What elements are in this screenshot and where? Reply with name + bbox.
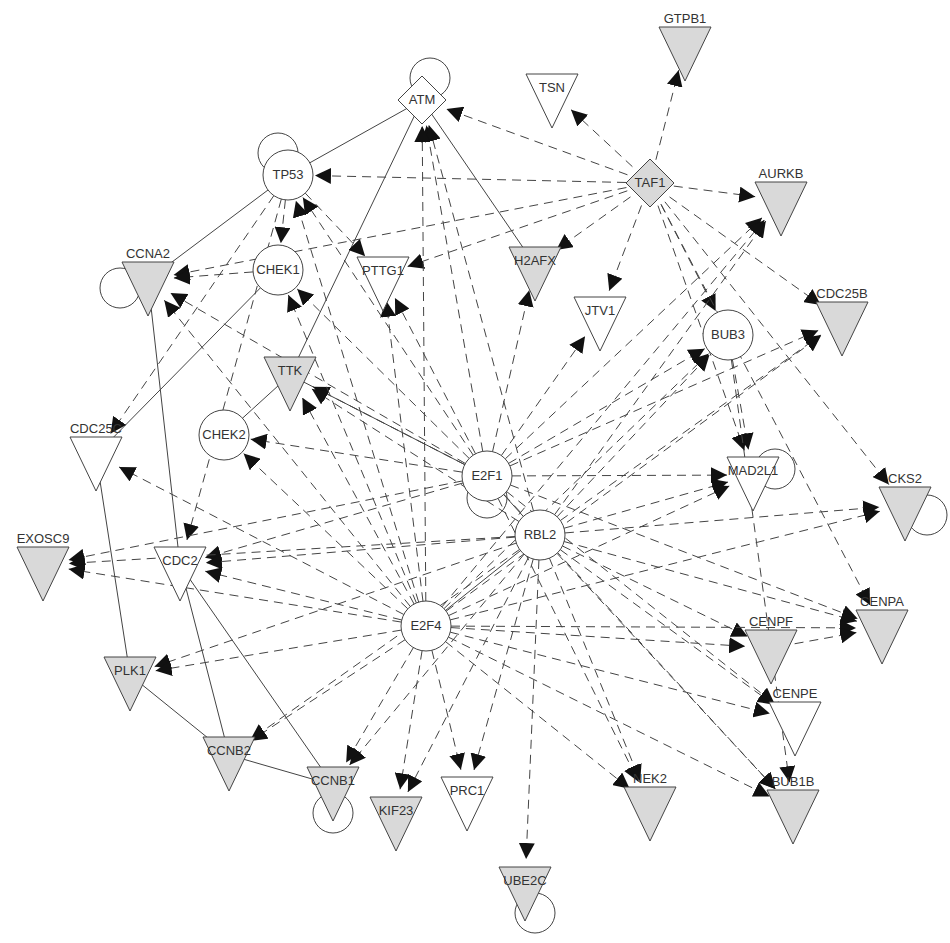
- node-tp53[interactable]: TP53: [263, 150, 313, 200]
- edge-e2f4-prc1: [432, 650, 461, 769]
- node-cenpe[interactable]: CENPE: [769, 686, 821, 756]
- triangle-shape-icon: [17, 547, 69, 601]
- node-label: RBL2: [524, 527, 557, 542]
- triangle-shape-icon: [879, 487, 931, 541]
- triangle-shape-icon: [769, 702, 821, 756]
- edge-e2f4-atm: [422, 126, 426, 601]
- node-mad2l1[interactable]: MAD2L1: [727, 457, 779, 511]
- node-label: CDC2: [162, 553, 197, 568]
- node-aurkb[interactable]: AURKB: [755, 166, 807, 236]
- edge-chek1-ccna2: [174, 272, 253, 278]
- node-cdc2[interactable]: CDC2: [154, 547, 206, 601]
- edge-taf1-atm: [446, 109, 627, 175]
- edge-taf1-cdc25b: [670, 197, 821, 305]
- node-rbl2[interactable]: RBL2: [515, 510, 565, 560]
- node-label: PTTG1: [362, 263, 404, 278]
- node-label: PLK1: [114, 663, 146, 678]
- triangle-shape-icon: [122, 262, 174, 316]
- edge-e2f4-kif23: [400, 651, 422, 790]
- node-label: CDC25C: [70, 421, 122, 436]
- edge-e2f1-cdc2: [205, 483, 463, 558]
- network-diagram: GTPB1TSNATMTAF1TP53AURKBCCNA2CHEK1PTTG1H…: [0, 0, 950, 943]
- node-gtpb1[interactable]: GTPB1: [659, 11, 711, 81]
- edge-e2f4-nek2: [446, 642, 630, 789]
- node-e2f4[interactable]: E2F4: [401, 601, 451, 651]
- edge-rbl2-cdc25b: [560, 335, 820, 520]
- node-atm[interactable]: ATM: [398, 76, 446, 124]
- edge-cenpf-cenpa: [795, 633, 857, 644]
- node-jtv1[interactable]: JTV1: [574, 297, 626, 351]
- edge-cdc2-ccnb1: [180, 565, 333, 785]
- node-layer: GTPB1TSNATMTAF1TP53AURKBCCNA2CHEK1PTTG1H…: [17, 11, 931, 921]
- edge-taf1-cenpa: [661, 204, 870, 605]
- node-label: CENPA: [860, 594, 904, 609]
- edge-e2f1-bub3: [509, 349, 705, 464]
- edge-ccna2-cdc2: [148, 280, 180, 565]
- node-pttg1[interactable]: PTTG1: [357, 257, 409, 311]
- node-taf1[interactable]: TAF1: [626, 159, 674, 207]
- node-nek2[interactable]: NEK2: [624, 771, 676, 841]
- edge-cdc25c-plk1: [96, 455, 130, 675]
- node-kif23[interactable]: KIF23: [370, 797, 422, 851]
- node-label: PRC1: [450, 783, 485, 798]
- node-prc1[interactable]: PRC1: [441, 777, 493, 831]
- node-chek1[interactable]: CHEK1: [253, 245, 303, 295]
- node-label: CCNA2: [126, 246, 170, 261]
- node-ube2c[interactable]: UBE2C: [499, 867, 551, 921]
- edge-rbl2-cks2: [565, 507, 879, 533]
- edge-atm-h2afx: [422, 100, 535, 265]
- node-plk1[interactable]: PLK1: [104, 657, 156, 711]
- edge-e2f4-chek2: [244, 454, 408, 609]
- edge-tp53-pttg1: [305, 193, 365, 256]
- node-label: E2F1: [471, 468, 502, 483]
- node-cenpf[interactable]: CENPF: [745, 614, 797, 684]
- node-exosc9[interactable]: EXOSC9: [17, 531, 70, 601]
- edge-rbl2-cenpf: [562, 546, 747, 637]
- edge-tp53-cdc25c: [111, 196, 274, 434]
- edge-taf1-gtpb1: [656, 70, 679, 160]
- node-label: BUB1B: [772, 774, 815, 789]
- edge-e2f4-plk1: [156, 630, 402, 671]
- node-label: NEK2: [633, 771, 667, 786]
- node-label: CCNB1: [311, 773, 355, 788]
- edge-e2f1-tp53: [303, 198, 473, 456]
- node-label: E2F4: [410, 618, 441, 633]
- node-bub1b[interactable]: BUB1B: [767, 774, 819, 844]
- node-h2afx[interactable]: H2AFX: [509, 247, 561, 301]
- triangle-shape-icon: [70, 437, 122, 491]
- node-label: CENPF: [749, 614, 793, 629]
- edge-e2f4-mad2l1: [449, 486, 730, 616]
- edge-taf1-tp53: [315, 176, 626, 183]
- node-cenpa[interactable]: CENPA: [856, 594, 908, 664]
- node-label: MAD2L1: [728, 463, 779, 478]
- triangle-shape-icon: [624, 787, 676, 841]
- node-label: CCNB2: [207, 743, 251, 758]
- node-ccnb1[interactable]: CCNB1: [307, 767, 359, 821]
- edge-tp53-chek1: [281, 200, 286, 243]
- edge-e2f4-ccnb2: [251, 640, 405, 741]
- edge-taf1-aurkb: [674, 186, 755, 197]
- node-cdc25b[interactable]: CDC25B: [816, 286, 868, 356]
- edge-e2f1-atm: [426, 126, 482, 452]
- edge-rbl2-ccnb1: [350, 554, 524, 765]
- edge-bub3-mad2l1: [732, 360, 748, 450]
- node-e2f1[interactable]: E2F1: [462, 451, 512, 501]
- triangle-shape-icon: [767, 790, 819, 844]
- node-tsn[interactable]: TSN: [526, 74, 578, 128]
- edge-rbl2-nek2: [549, 558, 640, 781]
- node-label: CHEK1: [256, 262, 299, 277]
- node-label: TTK: [278, 363, 303, 378]
- edge-e2f1-h2afx: [493, 290, 530, 451]
- node-cks2[interactable]: CKS2: [879, 471, 931, 541]
- node-ccnb2[interactable]: CCNB2: [203, 737, 255, 791]
- node-label: CENPE: [773, 686, 818, 701]
- node-label: H2AFX: [514, 253, 556, 268]
- node-chek2[interactable]: CHEK2: [199, 410, 249, 460]
- node-label: TSN: [539, 80, 565, 95]
- node-bub3[interactable]: BUB3: [703, 310, 753, 360]
- node-label: KIF23: [379, 803, 414, 818]
- triangle-shape-icon: [659, 27, 711, 81]
- edge-chek1-cdc25c: [96, 270, 278, 455]
- node-cdc25c[interactable]: CDC25C: [70, 421, 122, 491]
- triangle-shape-icon: [755, 182, 807, 236]
